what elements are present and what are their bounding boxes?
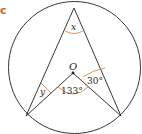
label-angle-133: 133° — [61, 86, 83, 96]
part-label: c — [0, 4, 7, 17]
label-angle-x: x — [71, 22, 76, 32]
label-center-o: O — [69, 61, 77, 72]
chord-top-right — [74, 8, 121, 116]
label-angle-30: 30° — [87, 76, 103, 86]
chord-top-left — [26, 8, 74, 116]
circle-theorem-diagram: c O x y 133° 30° — [0, 0, 142, 134]
center-point — [72, 72, 75, 75]
label-angle-y: y — [39, 87, 46, 97]
